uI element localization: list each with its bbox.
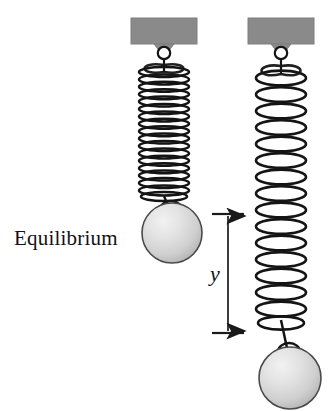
mass-ball-displaced bbox=[259, 347, 321, 409]
physics-figure: Equilibrium y bbox=[0, 0, 334, 411]
displacement-symbol-label: y bbox=[210, 261, 220, 287]
figure-canvas bbox=[0, 0, 334, 411]
support-block-right-body bbox=[248, 18, 314, 44]
equilibrium-label: Equilibrium bbox=[14, 226, 118, 251]
equilibrium-system bbox=[131, 18, 202, 263]
spring-stretched bbox=[256, 65, 306, 329]
mass-ball-equilibrium bbox=[142, 203, 202, 263]
hook-ring-right-circle bbox=[275, 47, 287, 59]
support-block-left-body bbox=[131, 18, 197, 44]
displaced-system bbox=[248, 18, 321, 409]
spring-compressed bbox=[139, 64, 189, 201]
hook-ring-left-circle bbox=[158, 47, 170, 59]
